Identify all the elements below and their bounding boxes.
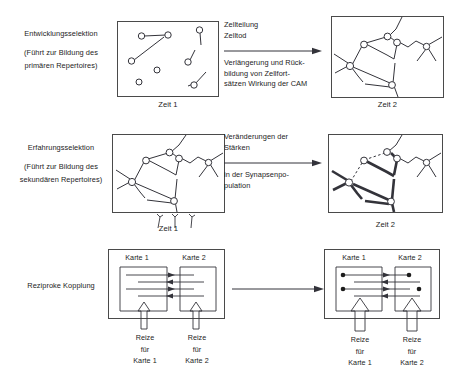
row-erfahrungsselektion: Erfahrungsselektion (Führt zur Bildung d…	[0, 122, 452, 240]
row3-transition-arrow	[232, 284, 324, 294]
row2-transition-arrow	[224, 158, 322, 168]
row2-transition-text-top: Veränderungen der Stärken	[224, 132, 329, 153]
row1-caption-zeit2: Zeit 2	[331, 100, 444, 109]
row3-left-reize2-l3: Karte 2	[172, 355, 222, 367]
row3-right-reize-l3: Karte 1	[335, 357, 385, 369]
row2-label-gap	[4, 154, 118, 161]
row1-panel-zeit1	[117, 21, 219, 97]
row3-right-reize-l2: für	[335, 346, 385, 358]
row3-right-map-diagram	[324, 249, 440, 341]
row-entwicklungsselektion: Entwicklungsselektion (Führt zur Bildung…	[0, 0, 452, 122]
row1-label-sub1: (Führt zur Bildung des	[6, 47, 116, 59]
row1-transition-text-top: Zellteilung Zelltod	[224, 20, 329, 41]
row3-left-reize-l2: für	[120, 344, 170, 356]
row3-right-reize-karte1: Reize für Karte 1	[335, 334, 385, 369]
row3-left-reize2-l2: für	[172, 344, 222, 356]
row2-caption-zeit1: Zeit 1	[112, 224, 225, 233]
row3-label-title: Reziproke Kopplung	[27, 281, 94, 290]
row3-right-reize2-l1: Reize	[387, 334, 437, 346]
row1-caption-zeit1: Zeit 1	[117, 100, 219, 109]
row2-left-label: Erfahrungsselektion (Führt zur Bildung d…	[4, 142, 118, 186]
row2-transition-text-bottom: in der Synapsenpo- pulation	[224, 170, 329, 191]
row1-label-title: Entwicklungsselektion	[24, 29, 97, 38]
figure-root: Entwicklungsselektion (Führt zur Bildung…	[0, 0, 452, 391]
row3-left-reize-l1: Reize	[120, 332, 170, 344]
row2-label-sub1: (Führt zur Bildung des	[4, 161, 118, 173]
row2-panel-zeit2	[328, 134, 443, 213]
row3-right-reize-l1: Reize	[335, 334, 385, 346]
row3-left-map-diagram	[108, 249, 225, 341]
row-reziproke-kopplung: Reziproke Kopplung Karte 1 Karte 2	[0, 240, 452, 391]
row3-left-reize-karte2: Reize für Karte 2	[172, 332, 222, 367]
row2-label-title: Erfahrungsselektion	[28, 143, 94, 152]
row3-right-reize-karte2: Reize für Karte 2	[387, 334, 437, 369]
row1-left-label: Entwicklungsselektion (Führt zur Bildung…	[6, 28, 116, 72]
row1-label-sub2: primären Repertoires)	[6, 60, 116, 72]
row1-panel-zeit2	[331, 16, 444, 98]
row1-zeit2-network	[332, 17, 443, 97]
row1-transition-arrow	[224, 46, 322, 56]
row1-zeit1-cells	[118, 22, 218, 96]
row2-zeit2-network	[329, 135, 442, 212]
row3-left-reize-l3: Karte 1	[120, 355, 170, 367]
row3-left-label: Reziproke Kopplung	[4, 280, 118, 292]
row2-panel-zeit1	[112, 134, 225, 213]
row3-left-reize2-l1: Reize	[172, 332, 222, 344]
row2-label-sub2: sekundären Repertoires)	[4, 174, 118, 186]
row1-transition-text-bottom: Verlängerung und Rück- bildung von Zellf…	[224, 58, 332, 90]
row2-caption-zeit2: Zeit 2	[328, 220, 443, 229]
row3-right-reize2-l3: Karte 2	[387, 357, 437, 369]
row3-right-reize2-l2: für	[387, 346, 437, 358]
row2-zeit1-network	[113, 135, 224, 212]
row1-label-gap	[6, 40, 116, 47]
row3-left-reize-karte1: Reize für Karte 1	[120, 332, 170, 367]
